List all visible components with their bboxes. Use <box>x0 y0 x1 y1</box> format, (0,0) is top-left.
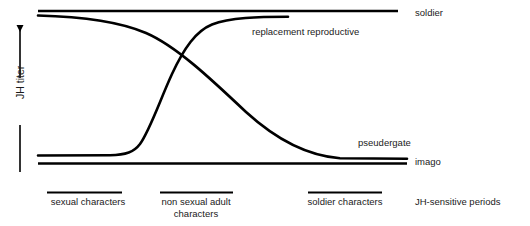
jh-titer-diagram: JH titer soldier replacement reproductiv… <box>0 0 530 226</box>
curve-label-imago: imago <box>415 157 441 167</box>
period-label-soldier-characters: soldier characters <box>295 196 395 208</box>
curve-label-replacement-reproductive: replacement reproductive <box>252 27 359 37</box>
curve-replacement-reproductive <box>38 17 288 156</box>
curve-label-soldier: soldier <box>415 8 443 18</box>
curve-label-pseudergate: pseudergate <box>358 138 411 148</box>
jh-sensitive-periods-row-label: JH-sensitive periods <box>415 196 501 207</box>
y-axis-title: JH titer <box>14 69 26 99</box>
period-label-sexual-characters: sexual characters <box>40 196 136 208</box>
period-label-line-2: characters <box>174 208 218 219</box>
period-label-non-sexual-adult-characters: non sexual adult characters <box>148 196 244 220</box>
period-label-line-1: non sexual adult <box>161 196 230 207</box>
